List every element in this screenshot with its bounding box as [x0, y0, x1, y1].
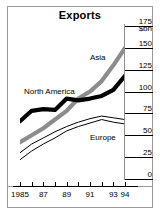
- x-axis-label: 91: [86, 190, 95, 200]
- series-label-europe: Europe: [90, 133, 116, 142]
- x-axis-label: 89: [62, 190, 71, 200]
- x-axis-tick: [113, 182, 114, 186]
- x-axis-tick: [90, 182, 91, 186]
- x-axis-tick: [67, 182, 68, 186]
- y-axis-tick: 125: [125, 61, 153, 71]
- series-north-america: [20, 76, 125, 121]
- x-axis-label: 93: [109, 190, 118, 200]
- x-axis-label: 94: [121, 190, 130, 200]
- y-axis-tick: 175: [125, 17, 153, 27]
- series-path-north-america: [20, 76, 125, 121]
- x-axis-tick: [55, 182, 56, 186]
- x-axis-tick: [32, 182, 33, 186]
- y-axis-tick: 100: [125, 83, 153, 93]
- plot-area: [20, 26, 125, 179]
- x-axis-line: [13, 186, 138, 187]
- x-axis-label: 87: [39, 190, 48, 200]
- series-label-north-america: North America: [24, 87, 75, 96]
- x-axis-label: 1985: [11, 190, 29, 200]
- y-axis-tick: 75: [125, 104, 153, 114]
- x-axis-tick: [102, 182, 103, 186]
- y-axis: $bn 1751501251007550250: [125, 24, 153, 180]
- x-axis-tick: [20, 182, 21, 186]
- exports-line-chart: Exports Asia North America Europe $bn 17…: [0, 0, 160, 219]
- series-canvas: [20, 26, 125, 179]
- x-axis-tick: [43, 182, 44, 186]
- x-axis-tick: [78, 182, 79, 186]
- y-axis-tick: 50: [125, 126, 153, 136]
- x-axis-tick: [125, 182, 126, 186]
- y-axis-tick: 25: [125, 148, 153, 158]
- series-label-asia: Asia: [90, 53, 106, 62]
- y-axis-tick: 150: [125, 39, 153, 49]
- y-axis-tick: 0: [125, 170, 153, 180]
